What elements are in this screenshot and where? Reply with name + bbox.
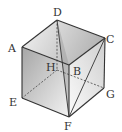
vertex-label-G: G [106,88,115,101]
vertex-label-A: A [7,42,17,55]
vertex-label-D: D [53,6,62,19]
vertex-label-C: C [106,33,114,46]
vertex-label-H: H [46,61,56,74]
vertex-label-B: B [73,65,81,78]
cube-diagram: D A C H B E G F [0,0,122,132]
vertex-label-F: F [64,120,72,132]
vertex-label-E: E [9,96,17,109]
